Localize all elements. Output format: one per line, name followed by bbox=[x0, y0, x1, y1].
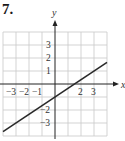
svg-text:2: 2 bbox=[78, 87, 83, 97]
x-tick-labels: −3 −2 −1 2 3 bbox=[6, 87, 96, 97]
coordinate-plane: x y −3 −2 −1 2 3 3 2 1 −2 −3 bbox=[0, 0, 125, 141]
svg-text:−1: −1 bbox=[32, 87, 42, 97]
x-axis-label: x bbox=[120, 79, 125, 90]
svg-text:−3: −3 bbox=[6, 87, 16, 97]
svg-text:3: 3 bbox=[46, 40, 51, 50]
svg-text:3: 3 bbox=[91, 87, 96, 97]
svg-text:−3: −3 bbox=[40, 118, 50, 128]
svg-text:1: 1 bbox=[46, 66, 51, 76]
svg-text:−2: −2 bbox=[19, 87, 29, 97]
y-axis-arrow-icon bbox=[53, 20, 58, 26]
y-axis-label: y bbox=[51, 7, 57, 18]
x-axis-arrow-icon bbox=[113, 82, 119, 87]
svg-text:2: 2 bbox=[46, 53, 51, 63]
